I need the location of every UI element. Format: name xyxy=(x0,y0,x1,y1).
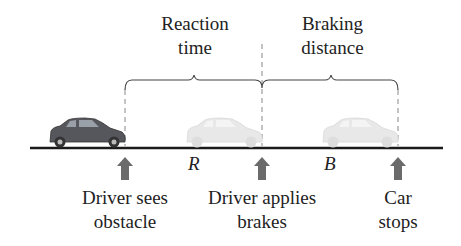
event-label-sees-obstacle: Driver sees obstacle xyxy=(70,186,180,234)
reaction-distance-var: R xyxy=(188,153,200,175)
label-line: brakes xyxy=(198,210,326,234)
car-icon-start xyxy=(50,118,125,148)
label-line: stops xyxy=(368,210,428,234)
braking-distance-var: B xyxy=(324,153,336,175)
label-line: obstacle xyxy=(70,210,180,234)
label-line: distance xyxy=(285,36,380,60)
label-line: Car xyxy=(368,186,428,210)
car-icon-ghost-2 xyxy=(323,118,398,148)
reaction-time-label: Reaction time xyxy=(150,12,240,60)
arrow-up-icon xyxy=(390,157,406,180)
car-icon-ghost-1 xyxy=(187,118,262,148)
arrow-up-icon xyxy=(117,157,133,180)
event-label-applies-brakes: Driver applies brakes xyxy=(198,186,326,234)
arrow-up-icon xyxy=(254,157,270,180)
label-line: Reaction xyxy=(150,12,240,36)
braking-distance-label: Braking distance xyxy=(285,12,380,60)
label-line: Driver sees xyxy=(70,186,180,210)
label-line: time xyxy=(150,36,240,60)
label-line: Driver applies xyxy=(198,186,326,210)
label-line: Braking xyxy=(285,12,380,36)
event-label-car-stops: Car stops xyxy=(368,186,428,234)
event-arrows xyxy=(117,157,406,180)
